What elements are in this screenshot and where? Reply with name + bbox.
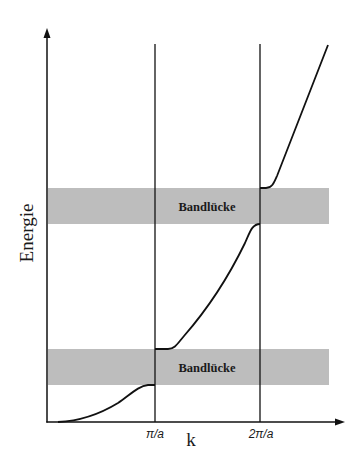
x-tick-label-2pi-a: 2π/a — [248, 427, 274, 441]
y-axis-label: Energie — [16, 204, 37, 263]
y-axis-arrow-icon — [44, 28, 51, 38]
x-tick-label-pi-a: π/a — [146, 427, 164, 441]
band-gap-upper-label: Bandlücke — [179, 200, 236, 214]
band-gap-lower: Bandlücke — [48, 349, 329, 385]
energy-band-1-curve — [58, 385, 155, 422]
energy-band-3-curve — [260, 45, 328, 188]
x-axis-label: k — [186, 429, 196, 450]
band-gap-upper: Bandlücke — [48, 188, 329, 224]
band-gap-lower-label: Bandlücke — [179, 361, 236, 375]
x-axis — [46, 419, 345, 426]
energy-band-2-curve — [155, 224, 260, 349]
x-axis-arrow-icon — [335, 419, 345, 426]
band-structure-diagram: Bandlücke Bandlücke π/a 2π/a k Energie — [0, 0, 362, 469]
